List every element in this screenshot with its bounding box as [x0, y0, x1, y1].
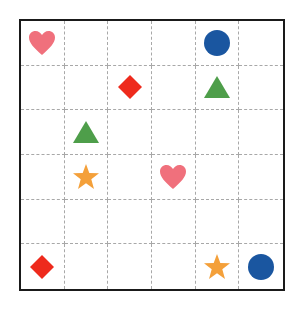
grid-cell-r2-c5 [239, 110, 283, 155]
diamond-icon [117, 74, 143, 100]
grid-cell-r3-c0 [21, 155, 65, 200]
grid-cell-r4-c3 [152, 200, 196, 245]
grid-cell-r1-c1 [65, 66, 109, 111]
star-icon [72, 163, 100, 190]
grid-cell-r1-c0 [21, 66, 65, 111]
grid-cell-r3-c5 [239, 155, 283, 200]
grid-cell-r0-c2 [108, 21, 152, 66]
grid-cell-r2-c2 [108, 110, 152, 155]
grid-cell-r4-c1 [65, 200, 109, 245]
circle-icon [203, 29, 231, 57]
heart-icon [28, 30, 56, 56]
diamond-icon [29, 254, 55, 280]
triangle-icon [72, 120, 100, 144]
grid-cell-r3-c3 [152, 155, 196, 200]
grid-cell-r1-c4 [196, 66, 240, 111]
circle-icon [247, 253, 275, 281]
grid-cell-r2-c0 [21, 110, 65, 155]
grid-cell-r4-c0 [21, 200, 65, 245]
grid-cell-r0-c3 [152, 21, 196, 66]
grid-cell-r1-c3 [152, 66, 196, 111]
grid [21, 21, 283, 289]
grid-cell-r3-c4 [196, 155, 240, 200]
grid-cell-r0-c0 [21, 21, 65, 66]
grid-cell-r5-c3 [152, 244, 196, 289]
grid-cell-r5-c4 [196, 244, 240, 289]
grid-cell-r0-c5 [239, 21, 283, 66]
grid-cell-r5-c1 [65, 244, 109, 289]
grid-cell-r5-c5 [239, 244, 283, 289]
shape-grid-board [19, 19, 285, 291]
grid-cell-r2-c1 [65, 110, 109, 155]
grid-cell-r1-c2 [108, 66, 152, 111]
grid-cell-r3-c2 [108, 155, 152, 200]
grid-cell-r4-c5 [239, 200, 283, 245]
grid-cell-r4-c4 [196, 200, 240, 245]
grid-cell-r3-c1 [65, 155, 109, 200]
heart-icon [159, 164, 187, 190]
grid-cell-r0-c1 [65, 21, 109, 66]
triangle-icon [203, 75, 231, 99]
grid-cell-r5-c2 [108, 244, 152, 289]
star-icon [203, 253, 231, 280]
grid-cell-r2-c3 [152, 110, 196, 155]
grid-cell-r4-c2 [108, 200, 152, 245]
grid-cell-r0-c4 [196, 21, 240, 66]
grid-cell-r2-c4 [196, 110, 240, 155]
grid-cell-r5-c0 [21, 244, 65, 289]
grid-cell-r1-c5 [239, 66, 283, 111]
